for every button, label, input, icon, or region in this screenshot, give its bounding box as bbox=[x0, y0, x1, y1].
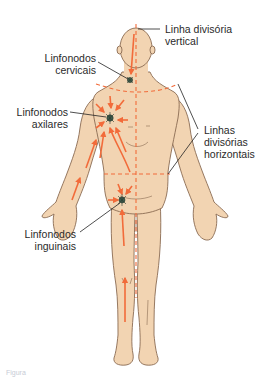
label-line: cervicais bbox=[36, 64, 96, 76]
label-line: inguinais bbox=[14, 240, 76, 252]
label-line: horizontais bbox=[204, 148, 255, 160]
cervical-node-icon bbox=[127, 77, 133, 83]
figure-caption: Figura bbox=[6, 369, 26, 376]
label-vertical-line: Linha divisória vertical bbox=[165, 23, 232, 47]
label-line: Linha divisória bbox=[165, 23, 232, 35]
label-line: Linfonodos bbox=[36, 52, 96, 64]
label-inguinal-nodes: Linfonodos inguinais bbox=[14, 228, 76, 252]
label-line: Linfonodos bbox=[6, 106, 68, 118]
label-horizontal-lines: Linhas divisórias horizontais bbox=[204, 124, 255, 160]
label-line: vertical bbox=[165, 35, 232, 47]
body-figure bbox=[42, 28, 228, 365]
label-axillary-nodes: Linfonodos axilares bbox=[6, 106, 68, 130]
label-line: Linhas bbox=[204, 124, 255, 136]
label-line: Linfonodos bbox=[14, 228, 76, 240]
label-line: axilares bbox=[6, 118, 68, 130]
leader-cervical bbox=[98, 62, 128, 79]
label-cervical-nodes: Linfonodos cervicais bbox=[36, 52, 96, 76]
label-line: divisórias bbox=[204, 136, 255, 148]
